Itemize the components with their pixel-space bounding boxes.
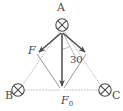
label-vertex-c: C (112, 90, 120, 101)
label-force-f0: F0 (61, 95, 73, 106)
node-marker-c (99, 84, 111, 96)
force-f-left (39, 33, 61, 52)
node-marker-a (56, 19, 68, 31)
edge-ftip-f0 (37, 54, 60, 88)
force-diagram-figure: A B C F F0 30 (0, 0, 123, 111)
label-vertex-a: A (57, 2, 65, 13)
label-force-f0-base: F (61, 94, 69, 107)
label-force-f: F (28, 45, 36, 56)
label-vertex-b: B (5, 90, 13, 101)
force-f-right (63, 33, 85, 52)
label-force-f0-subscript: 0 (69, 100, 73, 108)
angle-arc (63, 46, 71, 49)
label-angle-30: 30 (70, 55, 83, 65)
node-marker-b (12, 84, 24, 96)
